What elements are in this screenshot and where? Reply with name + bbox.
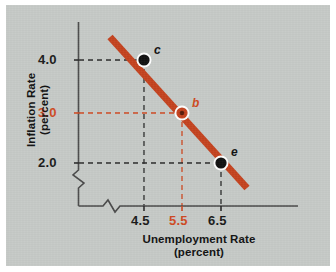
x-tick-label-4-5: 4.5 [131,213,150,228]
x-axis-line [79,200,299,212]
x-axis-title-units: (percent) [84,246,314,259]
y-axis-title: Inflation Rate (percent) [25,50,51,170]
data-point-b[interactable] [175,106,190,121]
chart-panel: c b e 4.0 3.0 2.0 4.5 5.5 6.5 Unemployme… [6,5,330,266]
point-label-e: e [231,145,238,159]
x-tick-label-6-5: 6.5 [208,213,227,228]
y-axis-title-main: Inflation Rate [25,50,38,170]
x-axis-title-main: Unemployment Rate [84,233,314,246]
point-label-c: c [154,43,161,57]
point-label-b: b [192,96,199,110]
x-axis-title: Unemployment Rate (percent) [84,233,314,259]
x-tick-label-5-5: 5.5 [169,213,188,228]
data-point-c[interactable] [137,53,152,68]
phillips-curve-figure: c b e 4.0 3.0 2.0 4.5 5.5 6.5 Unemployme… [0,0,336,272]
y-axis-line [73,22,84,206]
y-axis-title-units: (percent) [38,50,51,170]
chart-plot-area [6,5,330,266]
data-point-e[interactable] [214,156,229,171]
